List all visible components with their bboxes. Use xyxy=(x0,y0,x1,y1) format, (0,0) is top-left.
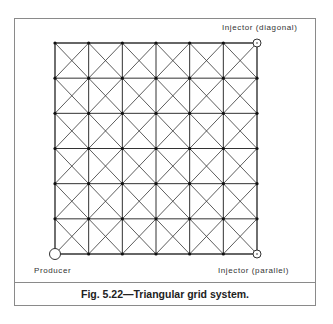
producer-label: Producer xyxy=(34,266,71,275)
injector-parallel-label: Injector (parallel) xyxy=(218,266,289,275)
producer-well-icon xyxy=(50,249,61,260)
injector-diagonal-label: Injector (diagonal) xyxy=(222,23,297,32)
triangular-grid-diagram xyxy=(0,0,333,324)
figure-caption: Fig. 5.22—Triangular grid system. xyxy=(14,283,316,306)
